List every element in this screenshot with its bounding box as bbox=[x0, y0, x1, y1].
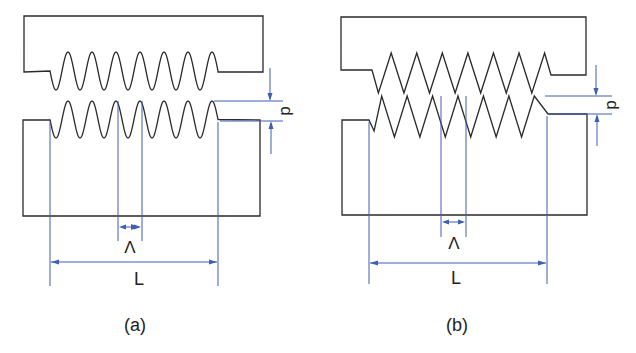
top-block-triangular bbox=[341, 17, 586, 93]
period-label: Λ bbox=[448, 234, 460, 253]
panel-a: Λ L d (a) bbox=[23, 16, 296, 335]
arrowhead-right-icon bbox=[209, 260, 217, 265]
arrowhead-up-icon bbox=[595, 114, 600, 122]
depth-label: d bbox=[277, 106, 296, 115]
arrowhead-up-icon bbox=[269, 121, 274, 129]
period-label: Λ bbox=[124, 238, 136, 257]
arrowhead-down-icon bbox=[268, 93, 273, 101]
length-label: L bbox=[134, 269, 144, 289]
arrowhead-right-icon bbox=[134, 225, 141, 230]
arrowhead-left-icon bbox=[51, 260, 59, 265]
depth-label: d bbox=[603, 100, 622, 109]
arrowhead-left-icon bbox=[119, 225, 126, 230]
length-label: L bbox=[451, 268, 461, 288]
grating-diagram: Λ L d (a) Λ L bbox=[0, 0, 636, 353]
arrowhead-left-icon bbox=[442, 220, 449, 225]
top-block-sinusoidal bbox=[24, 16, 263, 90]
arrowhead-down-icon bbox=[594, 88, 599, 96]
arrowhead-right-icon bbox=[538, 261, 546, 266]
arrowhead-left-icon bbox=[370, 261, 378, 266]
arrowhead-right-icon bbox=[458, 220, 465, 225]
panel-caption: (a) bbox=[124, 315, 146, 335]
panel-caption: (b) bbox=[446, 315, 468, 335]
panel-b: Λ L d (b) bbox=[341, 17, 622, 335]
